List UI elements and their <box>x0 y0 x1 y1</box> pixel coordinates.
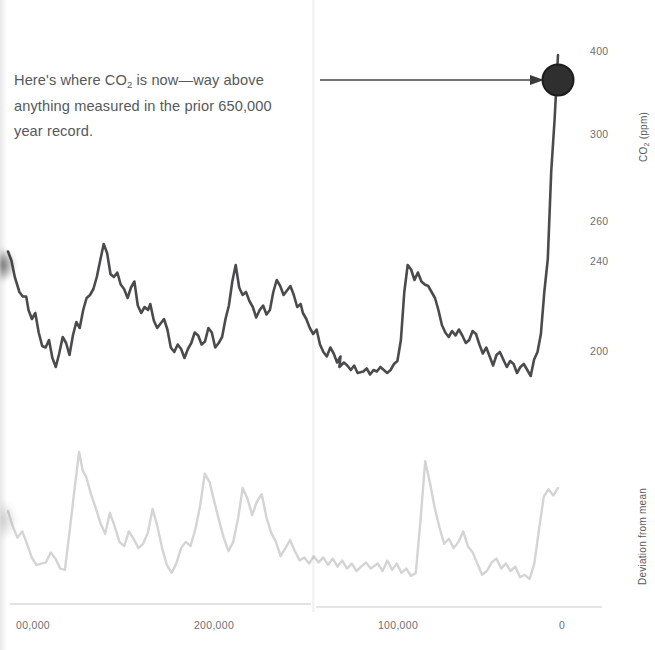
annotation-line1-a: Here's where CO <box>14 72 127 88</box>
y-tick-300: 300 <box>590 128 608 140</box>
y-tick-400: 400 <box>590 45 608 57</box>
y-tick-200: 200 <box>590 345 608 357</box>
present-day-marker <box>543 65 574 96</box>
annotation-line3: year record. <box>14 123 93 139</box>
y-tick-260: 260 <box>590 215 608 227</box>
chart-annotation: Here's where CO2 is now—way above anythi… <box>14 68 314 144</box>
y-axis-title-deviation: Deviation from mean <box>637 488 648 585</box>
annotation-line2: anything measured in the prior 650,000 <box>14 98 272 114</box>
x-tick-100000: 100,000 <box>358 619 438 631</box>
annotation-subscript: 2 <box>127 79 132 90</box>
page-edge-artifact-lower <box>0 500 18 540</box>
x-tick-200000: 200,000 <box>174 619 254 631</box>
page-edge-artifact <box>0 248 16 282</box>
y-axis-title-co2: CO2 (ppm) <box>638 112 649 162</box>
x-tick-0: 0 <box>542 619 582 631</box>
y-axis-title-co2-unit: (ppm) <box>638 112 649 142</box>
y-axis-title-co2-sub: 2 <box>643 142 650 146</box>
y-tick-240: 240 <box>590 255 608 267</box>
y-axis-title-co2-text: CO <box>638 147 649 163</box>
annotation-line1-b: is now—way above <box>132 72 263 88</box>
page-edge-shadow <box>0 0 7 650</box>
x-tick-300000: 00,000 <box>2 619 64 631</box>
chart-figure: Here's where CO2 is now—way above anythi… <box>0 0 655 650</box>
